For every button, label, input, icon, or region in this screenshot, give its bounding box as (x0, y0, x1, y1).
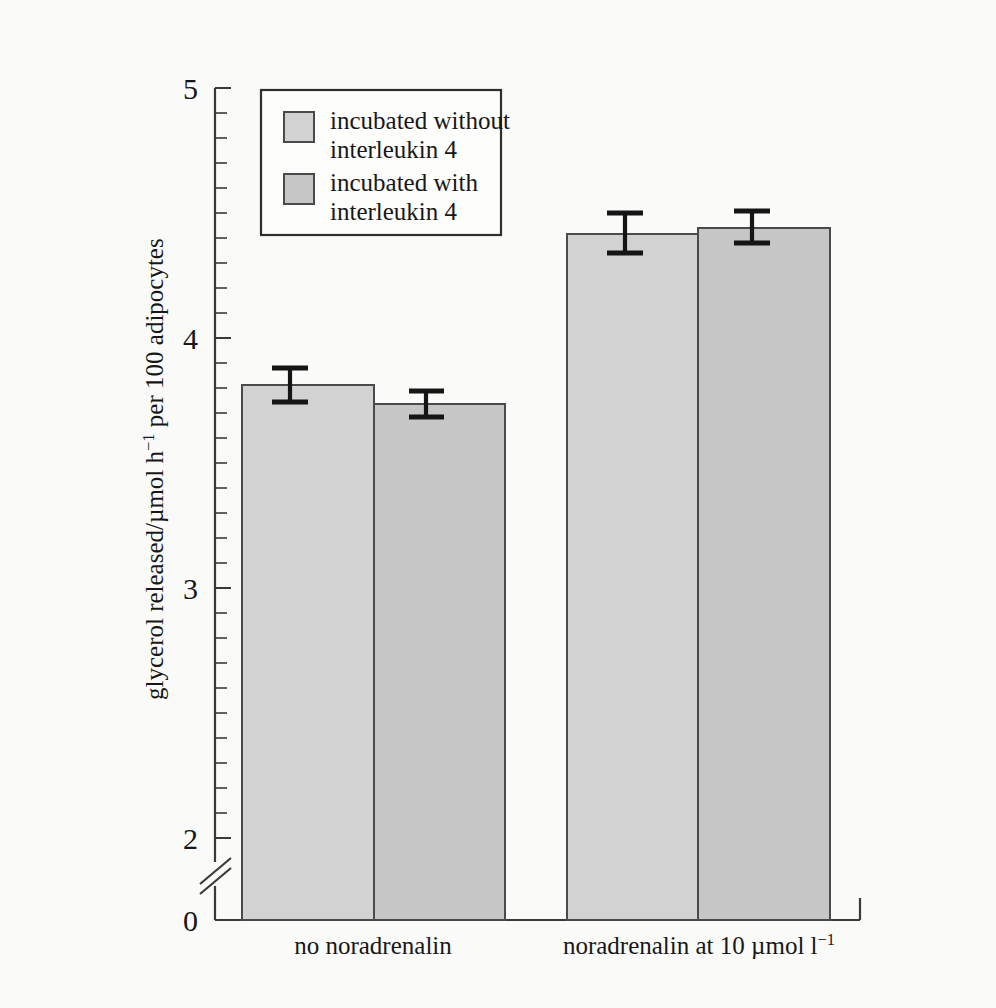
x-label-group1: no noradrenalin (294, 932, 452, 959)
x-label-group2-lead: noradrenalin at 10 µmol l (563, 932, 818, 959)
bar-group1-without-il4[interactable] (242, 385, 374, 920)
chart-svg: 5 4 3 2 0 glycerol released/µmol h−1 per… (0, 0, 996, 1008)
bar-group1-with-il4[interactable] (374, 404, 505, 920)
y-tick-label-3: 3 (183, 572, 198, 605)
legend-swatch-with-il4[interactable] (284, 174, 314, 204)
y-tick-label-0: 0 (183, 904, 198, 937)
x-label-group2-exponent: −1 (818, 930, 836, 949)
legend-label-with-il4-line1: incubated with (330, 169, 478, 196)
legend: incubated without interleukin 4 incubate… (261, 90, 510, 235)
figure-page: 5 4 3 2 0 glycerol released/µmol h−1 per… (0, 0, 996, 1008)
bar-chart: 5 4 3 2 0 glycerol released/µmol h−1 per… (0, 0, 996, 1008)
y-axis-title-tail: per 100 adipocytes (141, 238, 168, 433)
legend-label-with-il4-line2: interleukin 4 (330, 198, 458, 225)
legend-label-without-il4-line1: incubated without (330, 107, 510, 134)
y-minor-ticks (215, 113, 227, 813)
y-axis-title-lead: glycerol released/µmol h (141, 450, 168, 700)
y-tick-label-5: 5 (183, 72, 198, 105)
y-axis-title: glycerol released/µmol h−1 per 100 adipo… (139, 238, 168, 700)
y-axis-title-exponent: −1 (139, 433, 158, 451)
bar-group2-with-il4[interactable] (698, 228, 830, 920)
legend-label-without-il4-line2: interleukin 4 (330, 136, 458, 163)
y-tick-label-2: 2 (183, 822, 198, 855)
bar-group2-without-il4[interactable] (567, 234, 698, 920)
x-label-group2: noradrenalin at 10 µmol l−1 (563, 930, 835, 959)
y-tick-label-4: 4 (183, 322, 198, 355)
legend-swatch-without-il4[interactable] (284, 112, 314, 142)
